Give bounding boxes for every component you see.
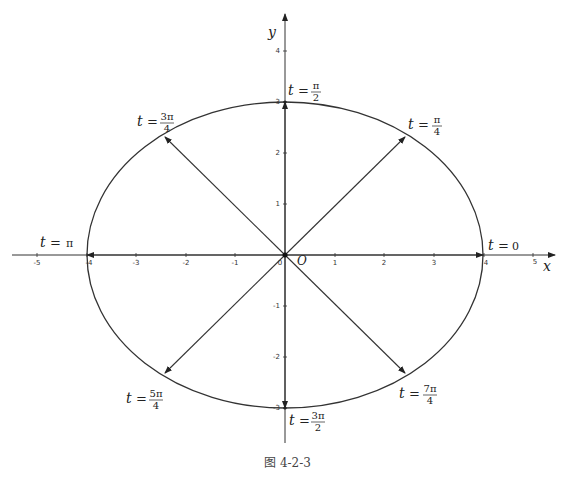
svg-text:4: 4 xyxy=(434,126,440,137)
svg-text:=: = xyxy=(299,413,310,428)
svg-text:=: = xyxy=(409,386,420,401)
svg-text:t: t xyxy=(126,390,132,406)
svg-text:=: = xyxy=(418,117,429,132)
svg-text:π: π xyxy=(434,114,441,125)
point-top xyxy=(283,100,286,103)
svg-text:4: 4 xyxy=(164,123,170,134)
svg-text:4: 4 xyxy=(427,395,433,406)
svg-text:-1: -1 xyxy=(273,302,280,310)
svg-text:7π: 7π xyxy=(424,383,437,394)
figure-caption: 图 4-2-3 xyxy=(0,453,575,470)
label-t-5pi-4: t = 5π 4 xyxy=(126,388,163,411)
y-axis-label: y xyxy=(267,24,277,40)
svg-text:-1: -1 xyxy=(232,259,239,267)
svg-text:4: 4 xyxy=(276,47,281,55)
svg-text:=: = xyxy=(498,238,509,253)
label-t0: t = 0 xyxy=(488,237,519,253)
svg-text:3π: 3π xyxy=(161,111,174,122)
svg-text:1: 1 xyxy=(333,259,337,267)
vector-t-3pi-4 xyxy=(165,137,285,255)
label-t-pi: t = π xyxy=(40,234,73,250)
svg-text:0: 0 xyxy=(512,240,519,253)
svg-text:5: 5 xyxy=(533,258,537,266)
label-t-3pi-2: t = 3π 2 xyxy=(289,410,325,433)
label-t-7pi-4: t = 7π 4 xyxy=(399,383,437,406)
svg-text:=: = xyxy=(298,83,309,98)
vector-t-5pi-4 xyxy=(165,255,285,373)
label-t-pi-2: t = π 2 xyxy=(288,80,321,103)
svg-text:t: t xyxy=(399,385,405,401)
svg-text:-3: -3 xyxy=(133,259,140,267)
svg-text:2: 2 xyxy=(315,422,321,433)
label-t-3pi-4: t = 3π 4 xyxy=(137,111,174,134)
svg-text:2: 2 xyxy=(382,259,386,267)
vector-t-7pi-4 xyxy=(285,255,405,373)
vector-t-pi-4 xyxy=(285,137,405,255)
svg-text:-2: -2 xyxy=(183,259,190,267)
svg-text:2: 2 xyxy=(276,149,280,157)
svg-text:t: t xyxy=(408,116,414,132)
point-bottom xyxy=(283,406,286,409)
svg-text:2: 2 xyxy=(313,92,319,103)
svg-text:t: t xyxy=(137,113,143,129)
svg-text:3π: 3π xyxy=(312,410,325,421)
svg-text:1: 1 xyxy=(276,200,280,208)
svg-text:t: t xyxy=(488,237,494,253)
x-axis-label: x xyxy=(543,258,551,274)
svg-text:4: 4 xyxy=(484,259,489,267)
svg-text:t: t xyxy=(289,412,295,428)
svg-text:4: 4 xyxy=(153,400,159,411)
ellipse-diagram: -5 -4 -3 -2 -1 0 1 2 3 4 5 4 3 2 1 -1 -2… xyxy=(0,0,575,483)
svg-text:π: π xyxy=(313,80,320,91)
svg-text:-2: -2 xyxy=(273,353,280,361)
svg-text:t: t xyxy=(40,234,46,250)
label-t-pi-4: t = π 4 xyxy=(408,114,442,137)
svg-text:t: t xyxy=(288,82,294,98)
svg-text:5π: 5π xyxy=(150,388,163,399)
svg-text:=: = xyxy=(147,114,158,129)
svg-text:=: = xyxy=(136,391,147,406)
svg-text:-5: -5 xyxy=(34,259,41,267)
svg-text:3: 3 xyxy=(432,259,436,267)
origin-point xyxy=(283,253,288,258)
svg-text:=: = xyxy=(50,235,61,250)
svg-text:π: π xyxy=(66,237,73,250)
origin-label: O xyxy=(297,254,307,268)
